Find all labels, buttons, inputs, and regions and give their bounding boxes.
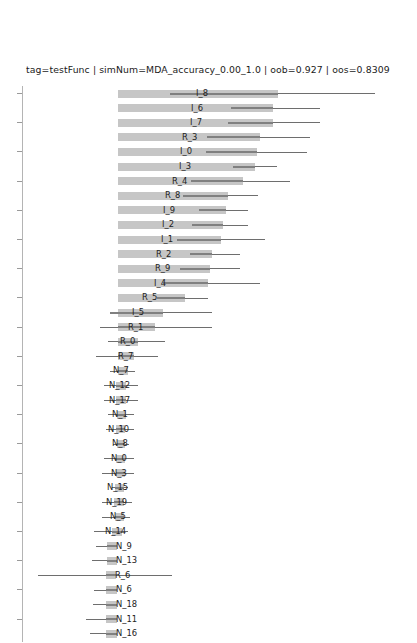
bar-label: N_8 [112, 437, 128, 450]
bar-row: I_2 [0, 217, 417, 232]
bar-label: R_1 [128, 321, 143, 334]
error-bar [163, 282, 208, 284]
bar-label: I_1 [161, 233, 173, 246]
bar-row: R_5 [0, 290, 417, 305]
whisker-line [100, 327, 212, 328]
bar-label: I_0 [180, 145, 192, 158]
bar-row: I_7 [0, 115, 417, 130]
bar-label: N_5 [110, 510, 126, 523]
bar-row: N_15 [0, 480, 417, 495]
bar-label: N_12 [109, 379, 130, 392]
bar-row: N_13 [0, 553, 417, 568]
bar-label: N_14 [105, 525, 126, 538]
bar-row: N_3 [0, 466, 417, 481]
bar-label: N_9 [116, 540, 132, 553]
error-bar [190, 253, 212, 255]
bar-row: R_3 [0, 130, 417, 145]
bar-label: I_2 [162, 218, 174, 231]
error-bar [177, 239, 221, 241]
plot-area: I_8I_6I_7R_3I_0I_3R_4R_8I_9I_2I_1R_2R_9I… [0, 86, 417, 643]
bar-label: R_0 [120, 335, 135, 348]
bar-label: N_7 [113, 364, 129, 377]
bar-label: N_10 [108, 423, 129, 436]
bar-row: R_7 [0, 349, 417, 364]
bar-row: R_6 [0, 568, 417, 583]
error-bar [183, 195, 228, 197]
bar-row: I_0 [0, 144, 417, 159]
bar-label: R_8 [165, 189, 180, 202]
bar-row: R_2 [0, 247, 417, 262]
whisker-line [38, 575, 172, 576]
bar-row: I_3 [0, 159, 417, 174]
bar-label: N_1 [112, 408, 128, 421]
bar-row: N_16 [0, 626, 417, 641]
bar-label: N_0 [111, 452, 127, 465]
bar-row: N_8 [0, 436, 417, 451]
bar-row: N_11 [0, 612, 417, 627]
bar-row: N_10 [0, 422, 417, 437]
bar-label: I_3 [179, 160, 191, 173]
bar-label: N_18 [116, 598, 137, 611]
error-bar [157, 297, 185, 299]
error-bar [170, 93, 278, 95]
error-bar [207, 136, 260, 138]
bar-row: N_5 [0, 509, 417, 524]
bar-row: R_1 [0, 320, 417, 335]
bar-row: R_8 [0, 188, 417, 203]
bar-label: R_5 [142, 291, 157, 304]
error-bar [233, 166, 255, 168]
bar-row: N_1 [0, 407, 417, 422]
bar-row: I_8 [0, 86, 417, 101]
bar-label: R_9 [155, 262, 170, 275]
bar-row: R_0 [0, 334, 417, 349]
bar-row: R_4 [0, 174, 417, 189]
bar-row: R_9 [0, 261, 417, 276]
bar-label: R_3 [182, 131, 197, 144]
bar-label: N_13 [116, 554, 137, 567]
bar-row: I_6 [0, 101, 417, 116]
bar-label: R_4 [172, 175, 187, 188]
bar-label: I_8 [196, 87, 208, 100]
bar-label: N_16 [116, 627, 137, 640]
bar-row: N_19 [0, 495, 417, 510]
bar-row: I_5 [0, 305, 417, 320]
bar-label: R_6 [115, 569, 130, 582]
bar-label: I_9 [163, 204, 175, 217]
bar-row: I_1 [0, 232, 417, 247]
error-bar [192, 224, 223, 226]
bar-row: N_7 [0, 363, 417, 378]
bar-row: I_9 [0, 203, 417, 218]
bar-row: N_17 [0, 393, 417, 408]
bar-label: R_7 [118, 350, 133, 363]
bar-label: N_11 [116, 613, 137, 626]
bar-row: I_4 [0, 276, 417, 291]
bar-label: I_7 [190, 116, 202, 129]
bar-label: N_6 [116, 583, 132, 596]
error-bar [228, 122, 273, 124]
bar-row: N_6 [0, 582, 417, 597]
bar-row: N_9 [0, 539, 417, 554]
error-bar [199, 209, 226, 211]
bar-row: N_14 [0, 524, 417, 539]
bar-label: N_17 [109, 394, 130, 407]
feature-importance-chart: tag=testFunc | simNum=MDA_accuracy_0.00_… [0, 0, 417, 643]
bar-label: I_4 [154, 277, 166, 290]
bar-label: R_2 [156, 248, 171, 261]
bar-label: N_3 [111, 467, 127, 480]
bar-label: N_15 [107, 481, 128, 494]
error-bar [180, 268, 210, 270]
error-bar [191, 180, 243, 182]
bar-label: I_6 [191, 102, 203, 115]
chart-title: tag=testFunc | simNum=MDA_accuracy_0.00_… [26, 64, 390, 75]
bar-row: N_12 [0, 378, 417, 393]
error-bar [231, 107, 273, 109]
bar-label: N_19 [106, 496, 127, 509]
bar-row: N_0 [0, 451, 417, 466]
bar-row: N_18 [0, 597, 417, 612]
error-bar [206, 151, 257, 153]
bar-label: I_5 [132, 306, 144, 319]
